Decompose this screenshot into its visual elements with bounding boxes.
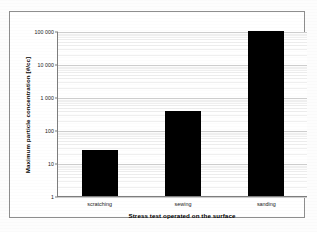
y-tick-label: 100 000 (35, 29, 54, 35)
y-tick-label: 10 000 (38, 62, 54, 68)
y-tick-mark (55, 65, 58, 66)
y-tick-label: 1 (51, 194, 54, 200)
y-tick-mark (55, 164, 58, 165)
y-tick-mark (55, 197, 58, 198)
bar (165, 111, 201, 196)
gridline (58, 197, 307, 198)
y-tick-label: 10 (48, 161, 54, 167)
y-axis-title: Maximum particle concentration [#/cc] (24, 56, 31, 172)
plot-area: 100 00010 0001 000100101 scratchingsewin… (57, 32, 307, 197)
y-tick-mark (55, 131, 58, 132)
x-tick-label: sanding (257, 201, 276, 207)
y-tick-mark (55, 32, 58, 33)
bar (82, 150, 118, 196)
y-tick-label: 1 000 (41, 95, 54, 101)
x-tick-label: scratching (87, 201, 112, 207)
y-tick-mark (55, 98, 58, 99)
x-axis-title: Stress test operated on the surface (57, 212, 307, 219)
bar (248, 31, 284, 196)
chart-figure-frame: Maximum particle concentration [#/cc] 10… (9, 11, 305, 218)
x-tick-label: sewing (175, 201, 192, 207)
y-tick-label: 100 (45, 128, 54, 134)
